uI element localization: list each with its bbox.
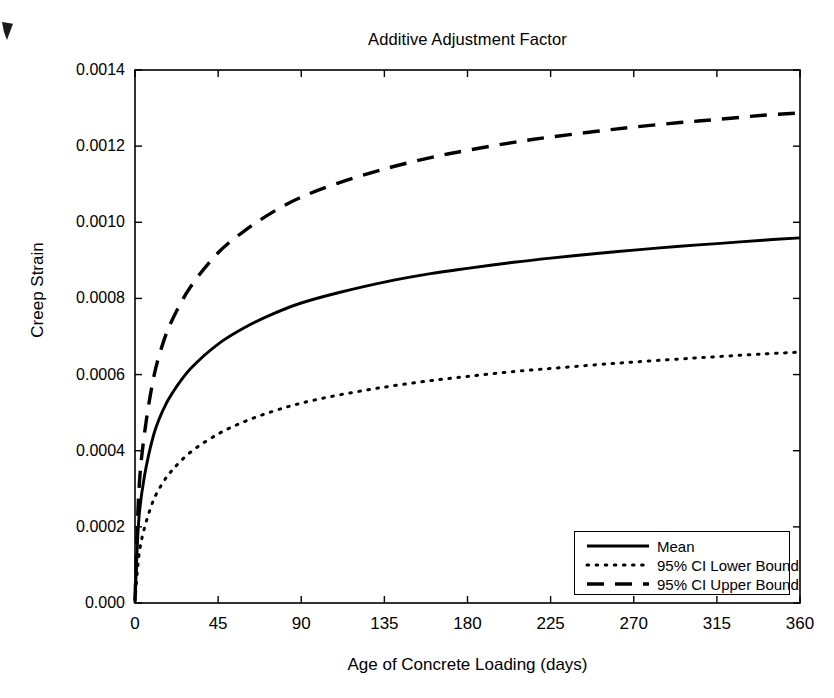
y-tick-label: 0.0002	[33, 519, 125, 535]
y-tick-label: 0.0006	[33, 367, 125, 383]
legend-line-swatch	[583, 558, 653, 572]
x-tick-label: 360	[765, 615, 834, 632]
x-tick-label: 90	[266, 615, 336, 632]
legend-item-label: 95% CI Upper Bound	[653, 577, 799, 592]
y-tick-label: 0.0012	[33, 138, 125, 154]
x-tick-label: 0	[100, 615, 170, 632]
chart-figure: Additive Adjustment Factor Creep Strain …	[0, 0, 834, 698]
y-tick-label: 0.0008	[33, 290, 125, 306]
legend-item[interactable]: 95% CI Lower Bound	[583, 556, 789, 574]
x-tick-label: 180	[433, 615, 503, 632]
legend-line-swatch	[583, 539, 653, 553]
legend-item-label: 95% CI Lower Bound	[653, 558, 799, 573]
chart-legend: Mean95% CI Lower Bound95% CI Upper Bound	[574, 531, 790, 595]
legend-item[interactable]: Mean	[583, 537, 789, 555]
x-tick-label: 270	[599, 615, 669, 632]
x-tick-label: 45	[183, 615, 253, 632]
legend-line-swatch	[583, 577, 653, 591]
y-tick-label: 0.0004	[33, 443, 125, 459]
x-tick-label: 135	[349, 615, 419, 632]
legend-item[interactable]: 95% CI Upper Bound	[583, 575, 789, 593]
y-tick-label: 0.000	[33, 595, 125, 611]
series-line-3	[135, 113, 800, 600]
x-tick-label: 315	[682, 615, 752, 632]
y-tick-label: 0.0014	[33, 62, 125, 78]
legend-item-label: Mean	[653, 539, 695, 554]
x-tick-label: 225	[516, 615, 586, 632]
y-tick-label: 0.0010	[33, 214, 125, 230]
